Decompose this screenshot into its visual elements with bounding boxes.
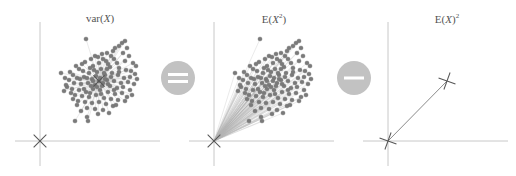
data-point bbox=[288, 103, 292, 107]
data-point bbox=[304, 93, 308, 97]
data-point bbox=[286, 57, 290, 61]
data-point bbox=[247, 119, 251, 123]
data-point bbox=[93, 107, 97, 111]
equals-bar-top bbox=[168, 73, 188, 76]
data-point bbox=[261, 71, 265, 75]
data-point bbox=[105, 51, 109, 55]
data-point bbox=[73, 93, 77, 97]
data-point bbox=[127, 54, 131, 58]
data-point bbox=[286, 79, 290, 83]
data-point bbox=[280, 90, 284, 94]
data-point bbox=[251, 88, 255, 92]
data-point bbox=[123, 39, 127, 43]
data-point bbox=[104, 102, 108, 106]
data-point bbox=[103, 77, 107, 81]
data-point bbox=[271, 100, 275, 104]
data-point bbox=[105, 67, 109, 71]
data-point bbox=[279, 51, 283, 55]
data-point bbox=[85, 106, 89, 110]
data-point bbox=[97, 61, 101, 65]
data-point bbox=[112, 88, 116, 92]
minus-bar bbox=[344, 77, 364, 80]
data-point bbox=[245, 97, 249, 101]
data-point bbox=[233, 71, 237, 75]
data-point bbox=[249, 103, 253, 107]
data-point bbox=[125, 46, 129, 50]
data-point bbox=[268, 93, 272, 97]
data-point bbox=[295, 51, 299, 55]
data-point bbox=[87, 71, 91, 75]
data-point bbox=[252, 77, 256, 81]
data-point bbox=[236, 89, 240, 93]
data-point bbox=[100, 52, 104, 56]
data-point bbox=[112, 57, 116, 61]
data-point bbox=[269, 85, 273, 89]
data-point bbox=[80, 62, 84, 66]
data-point bbox=[287, 92, 291, 96]
data-point bbox=[88, 66, 92, 70]
data-point bbox=[69, 91, 73, 95]
data-point bbox=[86, 119, 90, 123]
data-point bbox=[68, 70, 72, 74]
data-point bbox=[303, 69, 307, 73]
data-point bbox=[302, 88, 306, 92]
data-point bbox=[280, 82, 284, 86]
data-point bbox=[101, 108, 105, 112]
data-point bbox=[286, 88, 290, 92]
data-point bbox=[84, 37, 88, 41]
data-point bbox=[129, 69, 133, 73]
data-point bbox=[274, 52, 278, 56]
data-point bbox=[64, 83, 68, 87]
data-point bbox=[102, 96, 106, 100]
data-point bbox=[257, 100, 261, 104]
data-point bbox=[97, 100, 101, 104]
data-point bbox=[128, 88, 132, 92]
data-point bbox=[289, 61, 293, 65]
data-point bbox=[260, 119, 264, 123]
data-point bbox=[266, 68, 270, 72]
data-point bbox=[89, 84, 93, 88]
data-point bbox=[117, 70, 121, 74]
data-point bbox=[71, 97, 75, 101]
data-point bbox=[72, 81, 76, 85]
data-point bbox=[270, 55, 274, 59]
data-point bbox=[117, 44, 121, 48]
data-point bbox=[248, 64, 252, 68]
data-point bbox=[87, 95, 91, 99]
data-point bbox=[279, 67, 283, 71]
data-point bbox=[274, 84, 278, 88]
panel-title-second-moment: E(X2) bbox=[234, 12, 314, 25]
data-point bbox=[263, 84, 267, 88]
data-point bbox=[291, 70, 295, 74]
data-point bbox=[88, 91, 92, 95]
data-point bbox=[259, 106, 263, 110]
data-point bbox=[76, 99, 80, 103]
data-point bbox=[79, 82, 83, 86]
data-point bbox=[295, 85, 299, 89]
data-point bbox=[237, 76, 241, 80]
data-point bbox=[296, 76, 300, 80]
data-point bbox=[283, 97, 287, 101]
data-point bbox=[91, 79, 95, 83]
data-point bbox=[271, 61, 275, 65]
data-point bbox=[262, 91, 266, 95]
data-point bbox=[73, 119, 77, 123]
data-point bbox=[119, 81, 123, 85]
data-point bbox=[298, 68, 302, 72]
data-point bbox=[264, 101, 268, 105]
data-point bbox=[124, 68, 128, 72]
data-point bbox=[261, 95, 265, 99]
data-point bbox=[302, 75, 306, 79]
data-point bbox=[115, 61, 119, 65]
data-point bbox=[268, 74, 272, 78]
data-point bbox=[114, 103, 118, 107]
data-point bbox=[116, 98, 120, 102]
data-point bbox=[111, 49, 115, 53]
data-point bbox=[259, 115, 263, 119]
data-point bbox=[297, 99, 301, 103]
data-point bbox=[63, 76, 67, 80]
data-point bbox=[294, 91, 298, 95]
data-point bbox=[99, 92, 103, 96]
data-point bbox=[300, 80, 304, 84]
data-point bbox=[135, 77, 139, 81]
